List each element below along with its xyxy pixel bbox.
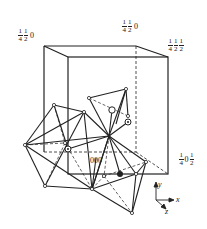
- upper-polyhedron: [89, 89, 128, 136]
- label-top-mid: 14 12 0: [122, 18, 138, 34]
- hidden-edges: [44, 46, 168, 174]
- axis-z-label: z: [165, 207, 168, 216]
- atoms: [23, 87, 147, 214]
- unit-cell-box: [44, 46, 168, 174]
- label-right-mid: 14 0 12: [179, 151, 195, 167]
- dark-atom: [117, 171, 123, 177]
- label-origin: 000: [90, 157, 102, 165]
- axis-y-label: y: [158, 180, 162, 189]
- label-top-right: 14 12 12: [168, 37, 185, 53]
- axis-x-label: x: [176, 195, 180, 204]
- axis-indicator: [154, 182, 174, 209]
- label-top-left: 14 12 0: [18, 27, 34, 43]
